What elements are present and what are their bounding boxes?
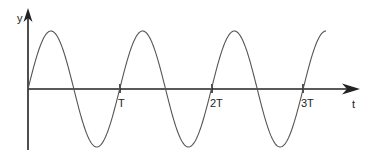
tick-label-T: T: [118, 97, 125, 109]
x-axis-label: t: [352, 98, 355, 110]
sine-wave-chart: y t T 2T 3T: [0, 0, 375, 156]
y-axis-label: y: [17, 12, 23, 24]
tick-label-3T: 3T: [301, 97, 314, 109]
tick-label-2T: 2T: [210, 97, 223, 109]
